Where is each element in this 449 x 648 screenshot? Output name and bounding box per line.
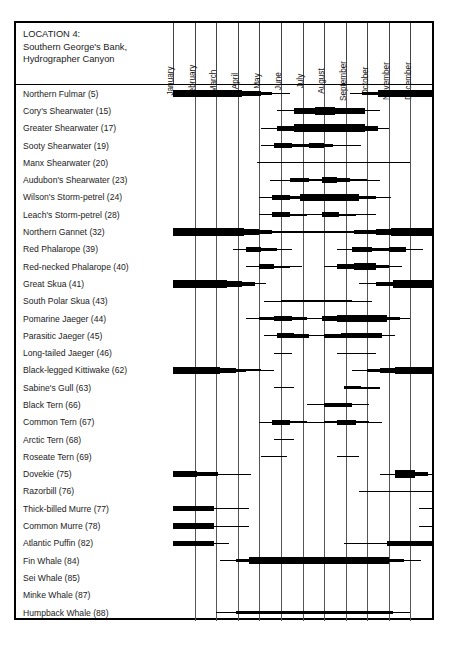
month-gridline xyxy=(389,414,390,431)
month-gridline xyxy=(281,535,282,552)
month-gridline xyxy=(346,587,347,604)
month-gridline xyxy=(346,431,347,448)
abundance-bar xyxy=(309,335,324,336)
month-gridline xyxy=(303,517,304,534)
month-gridline xyxy=(195,154,196,171)
abundance-bar xyxy=(294,108,316,113)
month-gridline xyxy=(389,569,390,586)
abundance-bar xyxy=(236,369,247,373)
abundance-bar xyxy=(274,353,291,354)
month-gridline xyxy=(195,431,196,448)
abundance-bar xyxy=(382,335,395,336)
month-gridline xyxy=(389,517,390,534)
species-label: Cory's Shearwater (15) xyxy=(23,102,171,119)
abundance-bar xyxy=(173,541,214,546)
abundance-bar xyxy=(249,557,389,565)
abundance-bar xyxy=(292,144,309,146)
abundance-bar xyxy=(391,228,432,236)
abundance-bar xyxy=(270,180,289,181)
species-label: Atlantic Puffin (82) xyxy=(23,535,171,552)
month-gridline xyxy=(259,517,260,534)
month-gridline xyxy=(281,500,282,517)
species-label: Minke Whale (87) xyxy=(23,587,171,604)
month-gridline xyxy=(346,362,347,379)
species-occurrence-plot xyxy=(173,604,432,621)
abundance-bar xyxy=(324,266,337,267)
month-gridline xyxy=(238,535,239,552)
month-gridline xyxy=(216,171,217,188)
abundance-bar xyxy=(214,508,229,509)
abundance-bar xyxy=(354,230,376,234)
month-gridline xyxy=(238,258,239,275)
abundance-bar xyxy=(233,474,250,475)
month-gridline xyxy=(303,275,304,292)
abundance-bar xyxy=(290,266,303,267)
abundance-bar xyxy=(216,612,235,613)
month-gridline xyxy=(195,120,196,137)
month-gridline xyxy=(389,293,390,310)
month-gridline xyxy=(259,500,260,517)
month-gridline xyxy=(259,466,260,483)
month-gridline xyxy=(324,85,325,102)
abundance-bar xyxy=(378,90,432,98)
month-gridline xyxy=(346,517,347,534)
abundance-bar xyxy=(300,194,358,202)
month-gridline xyxy=(303,431,304,448)
month-gridline xyxy=(259,344,260,361)
abundance-bar xyxy=(393,280,415,288)
species-occurrence-plot xyxy=(173,587,432,604)
species-label: Roseate Tern (69) xyxy=(23,448,171,465)
table-row: Black Tern (66) xyxy=(16,396,432,413)
abundance-bar xyxy=(419,508,432,509)
abundance-bar xyxy=(369,422,382,423)
month-gridline xyxy=(238,483,239,500)
abundance-bar xyxy=(337,353,376,354)
month-gridline xyxy=(346,500,347,517)
month-gridline xyxy=(389,500,390,517)
abundance-bar xyxy=(220,368,235,373)
species-label: Black-legged Kittiwake (62) xyxy=(23,362,171,379)
abundance-bar xyxy=(376,282,393,286)
abundance-bar xyxy=(294,334,309,338)
month-gridline xyxy=(195,414,196,431)
abundance-bar xyxy=(395,367,410,375)
abundance-bar xyxy=(354,263,376,271)
month-gridline xyxy=(216,206,217,223)
abundance-bar xyxy=(290,196,301,200)
month-gridline xyxy=(238,327,239,344)
abundance-bar xyxy=(173,280,227,288)
month-gridline xyxy=(389,171,390,188)
abundance-bar xyxy=(350,93,362,94)
species-label: Leach's Storm-petrel (28) xyxy=(23,206,171,223)
species-occurrence-plot xyxy=(173,241,432,258)
month-gridline xyxy=(259,327,260,344)
month-gridline xyxy=(389,206,390,223)
abundance-bar xyxy=(272,420,289,425)
abundance-bar xyxy=(344,543,387,544)
month-gridline xyxy=(281,466,282,483)
month-gridline xyxy=(410,604,411,621)
table-row: Leach's Storm-petrel (28) xyxy=(16,206,432,223)
month-gridline xyxy=(303,362,304,379)
month-gridline xyxy=(324,241,325,258)
month-gridline xyxy=(346,483,347,500)
abundance-bar xyxy=(229,526,248,527)
species-occurrence-plot xyxy=(173,223,432,240)
abundance-bar xyxy=(372,248,389,252)
species-occurrence-plot xyxy=(173,483,432,500)
month-gridline xyxy=(410,120,411,137)
abundance-bar xyxy=(229,508,248,509)
month-gridline xyxy=(195,258,196,275)
month-gridline xyxy=(389,431,390,448)
abundance-bar xyxy=(324,421,337,423)
month-gridline xyxy=(216,379,217,396)
month-gridline xyxy=(410,517,411,534)
abundance-bar xyxy=(173,228,244,236)
table-row: Roseate Tern (69) xyxy=(16,448,432,465)
abundance-bar xyxy=(410,367,432,375)
table-row: Great Skua (41) xyxy=(16,275,432,292)
abundance-bar xyxy=(341,333,382,338)
abundance-bar xyxy=(274,316,291,321)
abundance-bar xyxy=(356,421,369,423)
abundance-bar xyxy=(290,421,307,423)
